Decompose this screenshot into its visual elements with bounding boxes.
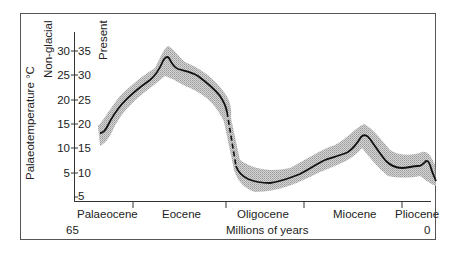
y-tick-labels-left: 30 25 20 15 10 5 [57,45,70,179]
y-tick-right-25: 25 [78,94,91,106]
y-tick-labels-right: 35 30 25 20 15 10 5 [78,45,91,202]
y-tick-left-10: 10 [57,142,70,154]
y-right-header-present: Present [97,20,109,60]
x-axis-title: Millions of years [226,224,309,236]
y-tick-left-5: 5 [64,167,70,179]
epoch-label-miocene: Miocene [333,208,376,220]
x-start-label: 65 [66,224,79,236]
uncertainty-band [98,46,436,192]
y-tick-right-10: 10 [78,167,91,179]
y-tick-left-20: 20 [57,94,70,106]
palaeotemperature-chart: 30 25 20 15 10 5 35 30 25 20 15 10 5 Pal… [0,0,457,254]
y-tick-right-35: 35 [78,45,91,57]
y-axis-title: Palaeotemperature °C [24,66,36,180]
epoch-label-pliocene: Pliocene [395,208,439,220]
y-tick-left-15: 15 [57,118,70,130]
y-tick-left-30: 30 [57,45,70,57]
epoch-label-oligocene: Oligocene [237,208,289,220]
y-tick-right-15: 15 [78,142,91,154]
epoch-boundary-ticks [133,201,402,208]
y-tick-right-5: 5 [78,190,84,202]
y-left-header-non-glacial: Non-glacial [42,20,54,78]
epoch-labels: Palaeocene Eocene Oligocene Miocene Plio… [77,208,439,220]
x-end-label: 0 [424,224,430,236]
y-tick-right-20: 20 [78,118,91,130]
y-tick-left-25: 25 [57,69,70,81]
y-tick-right-30: 30 [78,69,91,81]
epoch-label-eocene: Eocene [162,208,201,220]
epoch-label-palaeocene: Palaeocene [77,208,138,220]
